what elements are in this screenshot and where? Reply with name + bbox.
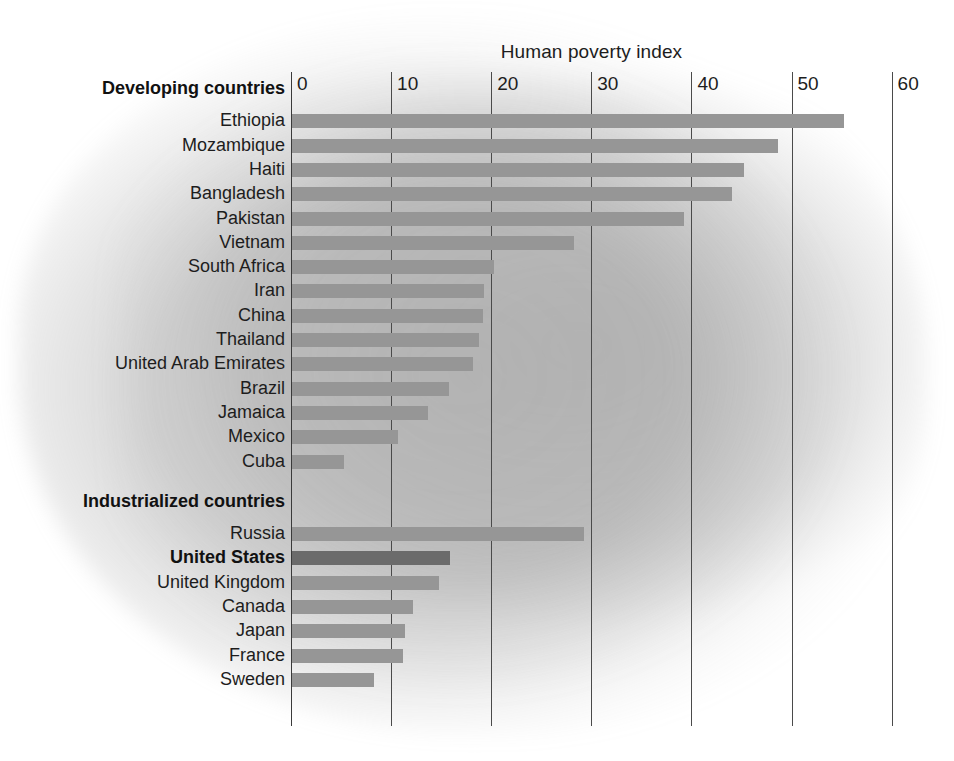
- gridline-50: [792, 72, 793, 726]
- bar-label: Iran: [254, 280, 285, 300]
- bar-label: Canada: [222, 596, 285, 616]
- x-tick-label: 60: [898, 73, 919, 95]
- bar: [292, 527, 584, 541]
- gridline-60: [892, 72, 893, 726]
- bar-label: Mozambique: [182, 135, 285, 155]
- x-tick-label: 30: [597, 73, 618, 95]
- bar-label: France: [229, 645, 285, 665]
- bar: [292, 163, 744, 177]
- x-tick-label: 50: [798, 73, 819, 95]
- bar: [292, 576, 439, 590]
- bar-label: Jamaica: [218, 402, 285, 422]
- bar-label: Mexico: [228, 426, 285, 446]
- bar-label: Russia: [230, 523, 285, 543]
- bar-label: United States: [170, 547, 285, 567]
- bar: [292, 187, 732, 201]
- bar-label: Ethiopia: [220, 110, 285, 130]
- bar: [292, 309, 483, 323]
- bar: [292, 673, 374, 687]
- bar: [292, 430, 398, 444]
- bar: [292, 406, 428, 420]
- bar: [292, 260, 494, 274]
- chart-title: Human poverty index: [291, 41, 892, 63]
- bar: [292, 357, 473, 371]
- bar: [292, 649, 403, 663]
- group-heading-industrialized: Industrialized countries: [83, 491, 285, 512]
- bar: [292, 455, 344, 469]
- bar-label: Vietnam: [219, 232, 285, 252]
- bar: [292, 139, 778, 153]
- bar-label: Japan: [236, 620, 285, 640]
- bar: [292, 284, 484, 298]
- bar: [292, 551, 450, 565]
- x-tick-label: 40: [697, 73, 718, 95]
- bar: [292, 333, 479, 347]
- bar: [292, 236, 574, 250]
- bar-label: Pakistan: [216, 208, 285, 228]
- bar-label: Thailand: [216, 329, 285, 349]
- bar: [292, 624, 405, 638]
- group-heading-developing: Developing countries: [102, 78, 285, 99]
- bar-label: United Arab Emirates: [115, 353, 285, 373]
- bar: [292, 382, 449, 396]
- bar-label: Brazil: [240, 378, 285, 398]
- bar-chart: Human poverty index 0102030405060 Develo…: [0, 0, 954, 761]
- x-tick-label: 0: [297, 73, 308, 95]
- bar-label: Bangladesh: [190, 183, 285, 203]
- bar-label: Haiti: [249, 159, 285, 179]
- x-tick-label: 10: [397, 73, 418, 95]
- bar: [292, 600, 413, 614]
- bar-label: Cuba: [242, 451, 285, 471]
- chart-page: Human poverty index 0102030405060 Develo…: [0, 0, 954, 761]
- bar-label: United Kingdom: [157, 572, 285, 592]
- bar-label: South Africa: [188, 256, 285, 276]
- x-tick-label: 20: [497, 73, 518, 95]
- bar: [292, 114, 844, 128]
- bar-label: Sweden: [220, 669, 285, 689]
- bar-label: China: [238, 305, 285, 325]
- bar: [292, 212, 684, 226]
